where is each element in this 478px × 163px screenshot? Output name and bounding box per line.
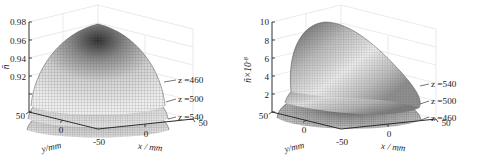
right-vtick-10: 10 [260,17,270,27]
right-vertical-ticks [272,22,275,112]
right-z-annotations [420,84,429,120]
left-vtick-1: 0.96 [10,36,26,46]
right-vtick-2: 2 [264,90,269,100]
svg-text:ñ×10-8: ñ×10-8 [242,56,253,82]
right-ytick-50: 50 [259,111,269,121]
right-vertical-axis-label-text: ñ×10 [243,62,253,83]
surface-z460 [22,20,177,120]
left-z-annotation-500: z =500 [178,94,204,104]
right-z-annotation-500: z =500 [431,96,457,106]
left-surface-svg: 0.98 0.96 0.94 0.92 n̄ 50 0 -50 y/mm [0,0,239,163]
right-vertical-axis-exponent: -8 [242,56,249,62]
chart-panel-left: 0.98 0.96 0.94 0.92 n̄ 50 0 -50 y/mm [0,0,239,163]
left-vertical-axis-label-text: n̄ [1,64,11,69]
right-z-annotation-540: z =540 [431,79,457,89]
right-x-axis-label: x / mm [380,141,407,154]
right-z-annotation-460: z =460 [431,113,457,123]
right-vtick-6: 6 [264,54,269,64]
left-ytick-0: 0 [59,125,64,135]
left-xtick-0: 0 [144,129,149,139]
left-y-axis-label-text: y/mm [40,140,63,155]
right-x-axis-label-text: x / mm [380,141,407,154]
left-vertical-ticks [29,22,32,112]
chart-panel-right: 10 8 6 4 2 ñ×10-8 50 0 -50 y/mm [239,0,478,163]
left-vtick-2: 0.94 [10,54,26,64]
figure-two-panel-surface-plots: 0.98 0.96 0.94 0.92 n̄ 50 0 -50 y/mm [0,0,478,163]
right-vertical-axis-label: ñ×10-8 [242,56,253,82]
right-y-axis-label-text: y/mm [283,140,306,155]
right-xtick-0: 0 [387,129,392,139]
left-vertical-axis-label: n̄ [1,64,11,69]
left-ytick-neg50: -50 [93,137,106,147]
right-vtick-4: 4 [264,72,269,82]
left-y-axis-label: y/mm [40,140,63,155]
left-z-annotation-460: z =460 [178,75,204,85]
left-ytick-50: 50 [16,111,26,121]
right-y-axis-label: y/mm [283,140,306,155]
left-x-axis-label: x / mm [137,141,164,154]
left-z-annotation-540: z =540 [178,112,204,122]
left-x-axis-label-text: x / mm [137,141,164,154]
right-vtick-8: 8 [264,36,269,46]
left-vtick-3: 0.92 [10,72,26,82]
right-ytick-neg50: -50 [336,137,349,147]
right-ytick-0: 0 [302,125,307,135]
left-vtick-0: 0.98 [10,17,26,27]
right-surface-svg: 10 8 6 4 2 ñ×10-8 50 0 -50 y/mm [239,0,478,163]
